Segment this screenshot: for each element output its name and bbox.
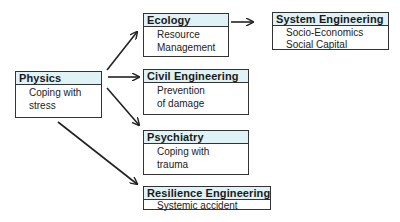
node-title: System Engineering (273, 13, 388, 26)
node-line: trauma (157, 158, 244, 171)
node-psychiatry: Psychiatry Coping with trauma (143, 130, 249, 175)
node-line: Socio-Economics (286, 27, 384, 39)
node-title: Psychiatry (144, 131, 248, 144)
node-line: Social Capital (286, 39, 384, 51)
node-line: Systemic accident (157, 201, 266, 211)
node-physics: Physics Coping with stress (15, 71, 102, 118)
node-body: Resource Management (144, 27, 228, 55)
node-body: Prevention of damage (144, 83, 248, 111)
node-body: Systemic accident (144, 200, 270, 212)
node-line: Coping with (157, 145, 244, 158)
node-title: Resilience Engineering (144, 187, 270, 200)
node-title: Ecology (144, 14, 228, 27)
node-line: Resource (157, 28, 224, 41)
node-body: Socio-Economics Social Capital (273, 26, 388, 51)
node-ecology: Ecology Resource Management (143, 13, 229, 57)
edge-physics-psychiatry (107, 88, 139, 125)
node-body: Coping with trauma (144, 144, 248, 172)
node-line: of damage (157, 97, 244, 110)
edge-physics-ecology (107, 32, 137, 70)
node-line: stress (29, 99, 97, 112)
node-body: Coping with stress (16, 85, 101, 113)
node-line: Management (157, 41, 224, 54)
node-line: Coping with (29, 86, 97, 99)
node-title: Civil Engineering (144, 70, 248, 83)
edge-physics-resilience-engineering (58, 122, 137, 184)
node-civil-engineering: Civil Engineering Prevention of damage (143, 69, 249, 115)
node-resilience-engineering: Resilience Engineering Systemic accident (143, 186, 271, 210)
node-title: Physics (16, 72, 101, 85)
node-system-engineering: System Engineering Socio-Economics Socia… (272, 12, 389, 50)
resilience-diagram: Physics Coping with stress Ecology Resou… (0, 0, 400, 222)
node-line: Prevention (157, 84, 244, 97)
